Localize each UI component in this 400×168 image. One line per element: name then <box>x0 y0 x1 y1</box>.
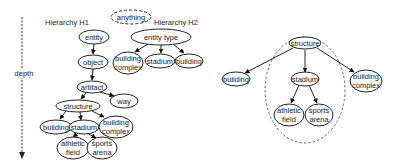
depth-label: depth <box>15 69 34 78</box>
arrow-down-icon <box>19 152 25 159</box>
node-building-complex: building complex <box>99 116 133 138</box>
svg-text:athletic: athletic <box>277 106 301 115</box>
svg-text:building: building <box>223 75 249 84</box>
svg-text:arena: arena <box>92 148 112 157</box>
node-way: way <box>110 94 138 108</box>
node-stadium: stadium <box>69 120 99 134</box>
svg-text:entity type: entity type <box>144 33 178 42</box>
svg-text:sports: sports <box>92 139 113 148</box>
node-entity-type: entity type <box>131 29 191 45</box>
svg-text:complex: complex <box>352 81 380 90</box>
svg-text:structure: structure <box>63 102 92 111</box>
right-node-building-complex: building complex <box>350 70 382 92</box>
hierarchy-h2-label: Hierarchy H2 <box>154 18 198 27</box>
svg-text:entity: entity <box>85 33 103 42</box>
svg-text:arena: arena <box>309 115 329 124</box>
right-node-stadium: stadium <box>291 72 319 86</box>
node-entity: entity <box>79 30 109 44</box>
node-h2-building-complex: building complex <box>113 52 143 74</box>
svg-text:way: way <box>116 97 131 106</box>
right-node-sports-arena: sports arena <box>305 104 333 126</box>
node-object: object <box>78 55 108 69</box>
node-athletic-field: athletic field <box>57 137 89 159</box>
svg-text:athletic: athletic <box>61 139 85 148</box>
node-h2-stadium: stadium <box>145 54 175 68</box>
svg-text:artifact: artifact <box>81 83 104 92</box>
svg-text:object: object <box>83 58 104 67</box>
svg-text:field: field <box>66 148 80 157</box>
node-sports-arena: sports arena <box>87 137 117 159</box>
svg-text:stadium: stadium <box>147 57 173 66</box>
node-artifact: artifact <box>77 81 107 93</box>
svg-text:stadium: stadium <box>292 75 318 84</box>
hierarchy-h1-label: Hierarchy H1 <box>45 18 89 27</box>
node-anything: anything <box>111 10 151 24</box>
hierarchy-diagram: depth Hierarchy H1 Hierarchy H2 anything… <box>0 0 400 168</box>
svg-text:structure: structure <box>290 39 319 48</box>
depth-axis: depth <box>10 17 33 159</box>
svg-text:building: building <box>103 118 129 127</box>
svg-text:building: building <box>115 54 141 63</box>
svg-text:stadium: stadium <box>71 123 97 132</box>
svg-text:building: building <box>43 123 69 132</box>
svg-text:sports: sports <box>309 106 330 115</box>
node-building: building <box>40 120 72 134</box>
node-structure: structure <box>56 100 100 112</box>
svg-text:complex: complex <box>102 127 130 136</box>
right-node-structure: structure <box>289 37 321 49</box>
svg-text:anything: anything <box>117 13 145 22</box>
node-h2-building: building <box>175 54 203 68</box>
svg-text:building: building <box>353 72 379 81</box>
svg-text:building: building <box>176 57 202 66</box>
svg-text:field: field <box>282 115 296 124</box>
right-node-athletic-field: athletic field <box>274 104 304 126</box>
svg-text:complex: complex <box>114 63 142 72</box>
right-node-building: building <box>222 72 250 86</box>
